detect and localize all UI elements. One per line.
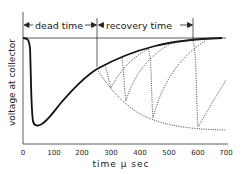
tick-600: 600 xyxy=(191,149,204,157)
tick-400: 400 xyxy=(133,149,146,157)
main-pulse-curve xyxy=(23,38,222,126)
x-axis-label: time μ sec xyxy=(93,159,150,169)
tick-300: 300 xyxy=(104,149,117,157)
dead-time-label: dead time xyxy=(35,20,83,31)
y-axis-label: voltage at collector xyxy=(7,39,17,126)
tick-700: 700 xyxy=(219,149,232,157)
dotted-curves xyxy=(97,38,226,130)
recovery-time-label: recovery time xyxy=(106,20,172,31)
tick-500: 500 xyxy=(162,149,175,157)
chart: dead time recovery time voltage at colle… xyxy=(0,0,242,174)
axes xyxy=(23,12,228,144)
tick-100: 100 xyxy=(47,149,60,157)
x-tick-labels: 0 100 200 300 400 500 600 700 xyxy=(21,149,233,157)
tick-200: 200 xyxy=(75,149,88,157)
tick-0: 0 xyxy=(21,149,25,157)
